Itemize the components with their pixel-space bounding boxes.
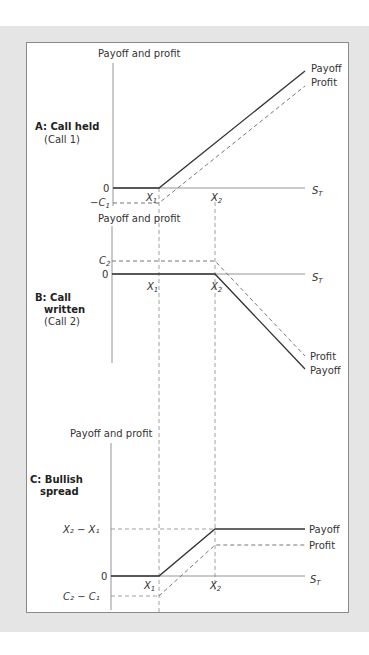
panel-c-x1-label: X1	[143, 580, 155, 593]
panel-b-x1-label: X1	[146, 281, 158, 294]
panel-b-zero: 0	[102, 269, 108, 280]
panel-b-st-label: ST	[312, 272, 323, 285]
panel-a-neg-c1: −C1	[90, 197, 110, 210]
panel-a-title: A: Call held	[35, 121, 99, 132]
panel-b-y-axis-label: Payoff and profit	[98, 213, 180, 224]
panel-c-profit-line	[159, 545, 305, 596]
panel-b-title-line1: B: Call	[35, 292, 71, 303]
panel-a-profit-line	[113, 86, 305, 203]
panel-a-payoff-label: Payoff	[311, 63, 343, 74]
panel-b-x2-label: X2	[210, 281, 223, 294]
panel-b: Payoff and profit C2 0 ST X1 X2 B: Call …	[35, 213, 342, 376]
panel-a-y-axis-label: Payoff and profit	[98, 48, 180, 59]
panel-a-zero: 0	[103, 183, 109, 194]
panel-b-profit-label: Profit	[310, 351, 336, 362]
panel-c-payoff-label: Payoff	[309, 524, 341, 535]
panel-a-profit-label: Profit	[311, 77, 337, 88]
panel-b-c2: C2	[99, 255, 111, 268]
panel-c-c2-minus-c1: C₂ − C₁	[63, 591, 100, 602]
panel-b-subtitle: (Call 2)	[44, 316, 80, 327]
panel-a: Payoff and profit A: Call held (Call 1) …	[35, 48, 343, 210]
panel-a-payoff-line	[113, 71, 305, 188]
panel-b-payoff-line	[112, 274, 305, 369]
panel-c-x2-label: X2	[209, 580, 222, 593]
panel-b-payoff-label: Payoff	[310, 365, 342, 376]
panel-b-profit-line	[112, 261, 305, 356]
panel-c-y-axis-label: Payoff and profit	[70, 428, 152, 439]
panel-b-title-line2: written	[44, 304, 85, 315]
panel-c-st-label: ST	[310, 574, 321, 587]
bull-spread-diagram: Payoff and profit A: Call held (Call 1) …	[0, 0, 369, 655]
panel-c-x2-minus-x1: X₂ − X₁	[62, 524, 99, 535]
panel-a-subtitle: (Call 1)	[44, 134, 80, 145]
panel-c-zero: 0	[101, 571, 107, 582]
panel-c-title-line1: C: Bullish	[30, 474, 83, 485]
panel-a-st-label: ST	[312, 185, 323, 198]
panel-c: Payoff and profit C: Bullish spread X₂ −…	[30, 428, 341, 610]
panel-c-profit-label: Profit	[309, 540, 335, 551]
panel-c-payoff-line	[111, 529, 305, 576]
panel-a-x2-label: X2	[210, 192, 223, 205]
panel-c-title-line2: spread	[40, 486, 79, 497]
